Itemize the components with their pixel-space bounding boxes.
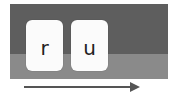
key-r: r — [26, 20, 63, 71]
right-arrow-icon — [24, 82, 140, 92]
key-label: u — [83, 36, 96, 60]
key-label: r — [40, 36, 48, 60]
key-u: u — [71, 20, 108, 71]
